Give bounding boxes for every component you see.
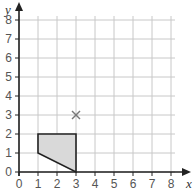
y-tick-label: 5 (5, 70, 12, 84)
x-tick-label: 1 (35, 177, 42, 191)
y-axis-label: y (3, 2, 11, 17)
x-tick-label: 4 (92, 177, 99, 191)
x-axis-arrow-icon (182, 168, 191, 176)
y-tick-label: 1 (5, 146, 12, 160)
x-tick-label: 5 (111, 177, 118, 191)
x-tick-label: 0 (16, 177, 23, 191)
x-tick-label: 3 (73, 177, 80, 191)
y-tick-label: 3 (5, 108, 12, 122)
y-tick-label: 4 (5, 89, 12, 103)
y-axis-arrow-icon (15, 2, 23, 11)
y-tick-label: 0 (5, 165, 12, 179)
y-tick-label: 7 (5, 32, 12, 46)
x-tick-label: 6 (130, 177, 137, 191)
coordinate-grid: 012345678012345678 x y (0, 0, 193, 195)
y-tick-label: 6 (5, 51, 12, 65)
x-tick-label: 2 (54, 177, 61, 191)
y-tick-label: 2 (5, 127, 12, 141)
x-axis-label: x (185, 176, 192, 191)
x-tick-label: 8 (168, 177, 175, 191)
x-tick-label: 7 (149, 177, 156, 191)
tick-labels: 012345678012345678 (5, 13, 174, 191)
